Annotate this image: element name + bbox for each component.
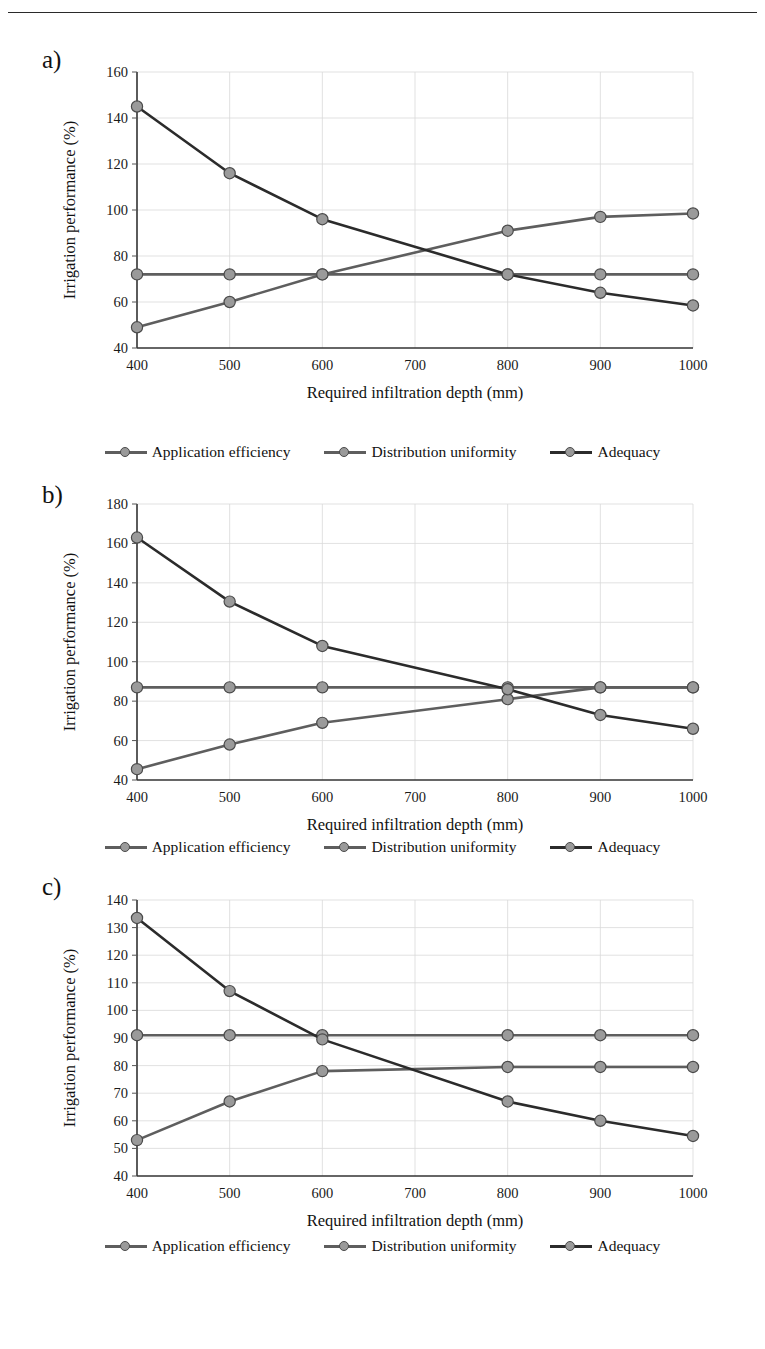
svg-text:500: 500 [219, 357, 241, 373]
svg-text:120: 120 [106, 947, 128, 963]
legend-circle-marker-icon [565, 842, 575, 852]
legend-line-swatch [550, 1240, 592, 1252]
legend-line-swatch [324, 1240, 366, 1252]
legend-circle-marker-icon [120, 1241, 130, 1251]
svg-text:800: 800 [497, 1185, 519, 1201]
svg-text:100: 100 [106, 654, 128, 670]
svg-text:80: 80 [114, 1058, 129, 1074]
legend-line-swatch [324, 841, 366, 853]
svg-text:100: 100 [106, 1002, 128, 1018]
y-axis-title: Irrigation performance (%) [60, 121, 79, 300]
svg-text:80: 80 [114, 248, 129, 264]
svg-text:100: 100 [106, 202, 128, 218]
svg-text:70: 70 [114, 1085, 129, 1101]
svg-text:900: 900 [589, 789, 611, 805]
svg-text:900: 900 [589, 1185, 611, 1201]
legend-item-label: Application efficiency [152, 443, 291, 461]
svg-text:800: 800 [497, 357, 519, 373]
legend-circle-marker-icon [339, 842, 349, 852]
svg-text:140: 140 [106, 110, 128, 126]
legend-circle-marker-icon [339, 1241, 349, 1251]
svg-text:160: 160 [106, 535, 128, 551]
svg-text:40: 40 [114, 340, 129, 356]
chart-svg: 4060801001201401601804005006007008009001… [55, 490, 715, 842]
legend-circle-marker-icon [339, 447, 349, 457]
svg-text:140: 140 [106, 575, 128, 591]
legend-circle-marker-icon [565, 1241, 575, 1251]
svg-text:1000: 1000 [679, 1185, 708, 1201]
chart-a: 4060801001201401604005006007008009001000… [55, 58, 715, 410]
y-axis-title: Irrigation performance (%) [60, 949, 79, 1128]
legend-circle-marker-icon [120, 447, 130, 457]
gridlines [137, 504, 693, 780]
svg-text:1000: 1000 [679, 789, 708, 805]
svg-text:600: 600 [311, 1185, 333, 1201]
legend-item-application-efficiency[interactable]: Application efficiency [105, 1237, 291, 1255]
legend-item-label: Distribution uniformity [371, 443, 516, 461]
svg-text:140: 140 [106, 892, 128, 908]
legend-b: Application efficiencyDistribution unifo… [0, 838, 765, 856]
svg-text:400: 400 [126, 789, 148, 805]
svg-text:1000: 1000 [679, 357, 708, 373]
legend-item-distribution-uniformity[interactable]: Distribution uniformity [324, 838, 516, 856]
svg-text:60: 60 [114, 294, 129, 310]
legend-item-label: Adequacy [597, 443, 660, 461]
svg-text:700: 700 [404, 789, 426, 805]
legend-line-swatch [550, 446, 592, 458]
svg-text:400: 400 [126, 1185, 148, 1201]
svg-text:900: 900 [589, 357, 611, 373]
legend-a: Application efficiencyDistribution unifo… [0, 443, 765, 461]
legend-item-label: Distribution uniformity [371, 1237, 516, 1255]
svg-text:180: 180 [106, 496, 128, 512]
legend-line-swatch [105, 1240, 147, 1252]
legend-item-adequacy[interactable]: Adequacy [550, 443, 660, 461]
legend-item-label: Application efficiency [152, 1237, 291, 1255]
legend-item-application-efficiency[interactable]: Application efficiency [105, 838, 291, 856]
x-axis-ticks: 4005006007008009001000 [126, 357, 707, 373]
legend-item-adequacy[interactable]: Adequacy [550, 838, 660, 856]
svg-text:600: 600 [311, 789, 333, 805]
svg-text:120: 120 [106, 156, 128, 172]
legend-item-label: Distribution uniformity [371, 838, 516, 856]
svg-text:40: 40 [114, 1168, 129, 1184]
svg-text:700: 700 [404, 1185, 426, 1201]
x-axis-title: Required infiltration depth (mm) [307, 383, 524, 402]
figure-page: a) 4060801001201401604005006007008009001… [0, 0, 765, 1349]
svg-text:500: 500 [219, 789, 241, 805]
chart-svg: 4050607080901001101201301404005006007008… [55, 886, 715, 1238]
svg-text:700: 700 [404, 357, 426, 373]
svg-text:110: 110 [107, 975, 128, 991]
svg-text:800: 800 [497, 789, 519, 805]
gridlines [137, 72, 693, 348]
y-axis-title: Irrigation performance (%) [60, 553, 79, 732]
x-axis-title: Required infiltration depth (mm) [307, 815, 524, 834]
legend-line-swatch [550, 841, 592, 853]
legend-item-label: Adequacy [597, 838, 660, 856]
svg-text:400: 400 [126, 357, 148, 373]
svg-text:50: 50 [114, 1140, 129, 1156]
page-top-rule [8, 12, 757, 13]
legend-c: Application efficiencyDistribution unifo… [0, 1237, 765, 1255]
legend-item-application-efficiency[interactable]: Application efficiency [105, 443, 291, 461]
legend-item-adequacy[interactable]: Adequacy [550, 1237, 660, 1255]
svg-text:80: 80 [114, 693, 129, 709]
legend-item-distribution-uniformity[interactable]: Distribution uniformity [324, 443, 516, 461]
legend-line-swatch [105, 841, 147, 853]
chart-svg: 4060801001201401604005006007008009001000… [55, 58, 715, 410]
legend-item-label: Application efficiency [152, 838, 291, 856]
chart-b: 4060801001201401601804005006007008009001… [55, 490, 715, 842]
x-axis-title: Required infiltration depth (mm) [307, 1211, 524, 1230]
legend-line-swatch [324, 446, 366, 458]
x-axis-ticks: 4005006007008009001000 [126, 789, 707, 805]
legend-line-swatch [105, 446, 147, 458]
x-axis-ticks: 4005006007008009001000 [126, 1185, 707, 1201]
gridlines [137, 900, 693, 1176]
svg-text:130: 130 [106, 920, 128, 936]
svg-text:90: 90 [114, 1030, 129, 1046]
svg-text:600: 600 [311, 357, 333, 373]
svg-text:120: 120 [106, 614, 128, 630]
svg-text:60: 60 [114, 1113, 129, 1129]
legend-circle-marker-icon [120, 842, 130, 852]
legend-item-distribution-uniformity[interactable]: Distribution uniformity [324, 1237, 516, 1255]
legend-circle-marker-icon [565, 447, 575, 457]
